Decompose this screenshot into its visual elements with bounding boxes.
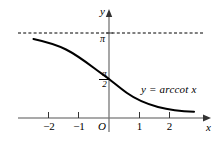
y-axis-arrow-icon: [106, 9, 112, 17]
y-tick-label-pi-over-2: π 2: [99, 69, 110, 90]
y-tick-label-pi: π: [100, 34, 105, 44]
plot-canvas: [0, 0, 221, 146]
x-tick-label-plus1: 1: [134, 121, 145, 132]
arccot-function-plot: y x π π 2 O −2 −1 1 2 y = arccot x: [0, 0, 221, 146]
curve-equation-label: y = arccot x: [141, 84, 197, 95]
x-tick-label-plus2: 2: [164, 121, 175, 132]
x-tick-label-minus2: −2: [41, 121, 57, 132]
pi-over-2-denominator: 2: [99, 80, 110, 89]
origin-label: O: [98, 121, 106, 132]
y-axis-label: y: [100, 6, 105, 17]
x-axis-label: x: [206, 122, 211, 133]
x-tick-label-minus1: −1: [71, 121, 87, 132]
arccot-curve: [34, 39, 195, 112]
pi-over-2-numerator: π: [99, 69, 110, 78]
